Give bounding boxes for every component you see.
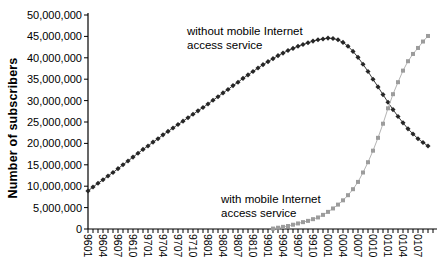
data-point-with: [326, 210, 330, 214]
data-point-with: [336, 203, 340, 207]
data-point-with: [296, 221, 300, 225]
annotation-with-line1: with mobile Internet: [221, 193, 321, 207]
subscriber-chart: 05,000,00010,000,00015,000,00020,000,000…: [0, 0, 441, 271]
annotation-without-line1: without mobile Internet: [187, 25, 303, 39]
data-point-with: [406, 59, 410, 63]
data-point-with: [391, 92, 395, 96]
y-tick-label: 30,000,000: [27, 95, 82, 107]
x-tick-label: 9601: [82, 234, 94, 258]
data-point-without: [270, 56, 275, 61]
x-tick-label: 0104: [397, 234, 409, 258]
data-point-without: [310, 39, 315, 44]
y-tick-label: 25,000,000: [27, 116, 82, 128]
y-tick-label: 10,000,000: [27, 180, 82, 192]
data-point-with: [341, 198, 345, 202]
x-tick-label: 9801: [202, 234, 214, 258]
data-point-without: [315, 37, 320, 42]
data-point-with: [331, 206, 335, 210]
data-point-with: [376, 136, 380, 140]
data-point-with: [286, 224, 290, 228]
data-point-without: [265, 59, 270, 64]
data-point-without: [370, 77, 375, 82]
x-tick-label: 9610: [127, 234, 139, 258]
x-tick-label: 9807: [232, 234, 244, 258]
x-tick-label: 9604: [97, 234, 109, 258]
x-tick-label: 0007: [352, 234, 364, 258]
data-point-with: [416, 46, 420, 50]
x-tick-label: 9607: [112, 234, 124, 258]
data-point-with: [361, 171, 365, 175]
x-tick-label: 0101: [382, 234, 394, 258]
data-point-without: [380, 92, 385, 97]
x-tick-label: 9710: [187, 234, 199, 258]
data-point-with: [281, 225, 285, 229]
data-point-with: [351, 187, 355, 191]
x-tick-label: 0107: [412, 234, 424, 258]
x-tick-label: 0004: [337, 234, 349, 258]
y-tick-label: 50,000,000: [27, 9, 82, 21]
data-point-with: [381, 122, 385, 126]
data-point-with: [411, 52, 415, 56]
data-point-with: [271, 227, 275, 231]
y-tick-label: 0: [76, 223, 82, 235]
data-point-without: [375, 84, 380, 89]
x-tick-label: 9701: [142, 234, 154, 258]
y-tick-label: 40,000,000: [27, 52, 82, 64]
x-tick-label: 9810: [247, 234, 259, 258]
annotation-with-line2: access service: [221, 207, 321, 221]
series-without-line: [88, 38, 428, 191]
data-point-without: [330, 36, 335, 41]
x-tick-label: 9904: [277, 234, 289, 258]
x-tick-label: 9910: [307, 234, 319, 258]
x-tick-label: 9704: [157, 234, 169, 258]
annotation-with-series: with mobile Internet access service: [221, 193, 321, 220]
data-point-with: [301, 220, 305, 224]
y-tick-label: 20,000,000: [27, 137, 82, 149]
y-axis-title: Number of subscribers: [6, 48, 22, 208]
x-tick-label: 9907: [292, 234, 304, 258]
y-tick-label: 5,000,000: [33, 202, 82, 214]
data-point-with: [396, 80, 400, 84]
data-point-without: [325, 36, 330, 41]
annotation-without-series: without mobile Internet access service: [187, 25, 303, 52]
data-point-with: [291, 223, 295, 227]
data-point-without: [275, 53, 280, 58]
x-tick-label: 9707: [172, 234, 184, 258]
y-tick-label: 35,000,000: [27, 73, 82, 85]
data-point-with: [426, 34, 430, 38]
data-point-without: [320, 36, 325, 41]
data-point-with: [371, 149, 375, 153]
y-tick-label: 15,000,000: [27, 159, 82, 171]
data-point-with: [276, 226, 280, 230]
data-point-with: [346, 193, 350, 197]
annotation-without-line2: access service: [187, 39, 303, 53]
data-point-with: [401, 69, 405, 73]
x-tick-label: 9901: [262, 234, 274, 258]
data-point-without: [305, 40, 310, 45]
data-point-with: [366, 160, 370, 164]
data-point-with: [386, 106, 390, 110]
data-point-without: [335, 37, 340, 42]
x-tick-label: 0010: [367, 234, 379, 258]
data-point-with: [421, 40, 425, 44]
x-tick-label: 9804: [217, 234, 229, 258]
data-point-with: [356, 180, 360, 184]
data-point-with: [321, 213, 325, 217]
y-tick-label: 45,000,000: [27, 30, 82, 42]
x-tick-label: 0001: [322, 234, 334, 258]
